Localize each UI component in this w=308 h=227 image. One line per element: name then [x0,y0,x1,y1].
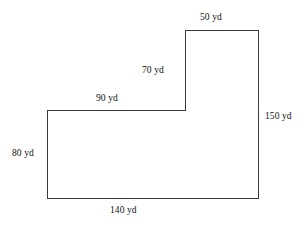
l-shape-polygon-svg [0,0,308,227]
dimension-label-bottom: 140 yd [110,205,137,216]
dimension-label-inner-horizontal: 90 yd [96,93,118,104]
dimension-label-top-right: 50 yd [200,12,222,23]
dimension-label-right-side: 150 yd [265,111,292,122]
l-shape-polygon-path [47,30,258,198]
figure-container: 50 yd 150 yd 70 yd 90 yd 80 yd 140 yd [0,0,308,227]
dimension-label-left-side: 80 yd [12,148,34,159]
dimension-label-inner-vertical: 70 yd [142,65,164,76]
